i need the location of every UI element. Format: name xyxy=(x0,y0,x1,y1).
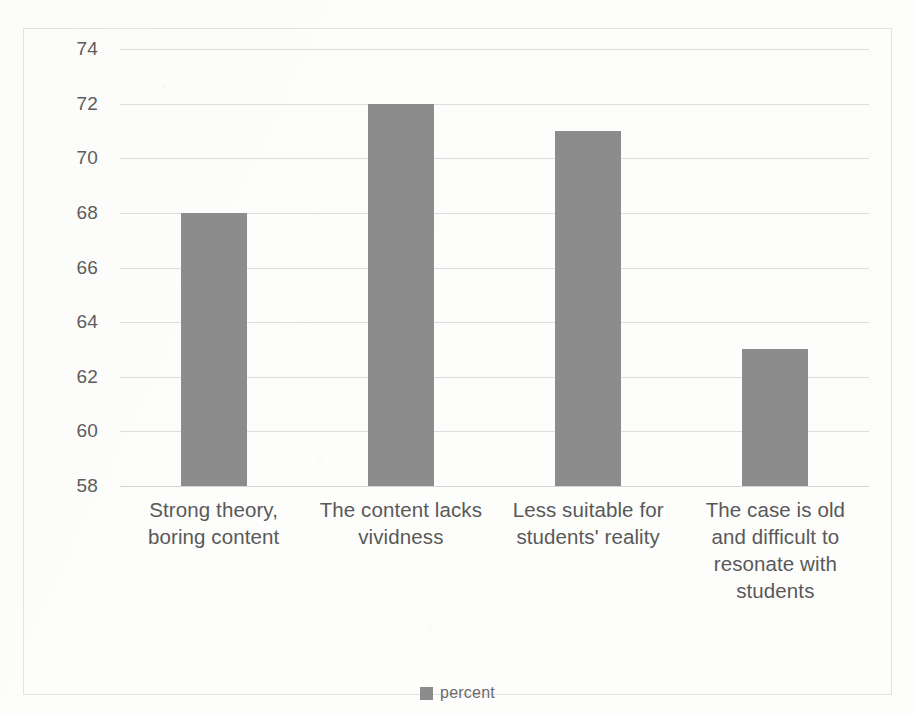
y-axis-tick-68: 68 xyxy=(76,202,98,224)
y-axis-tick-58: 58 xyxy=(76,475,98,497)
category-label-4: The case is old and difficult to resonat… xyxy=(682,496,869,604)
y-axis-tick-60: 60 xyxy=(76,420,98,442)
y-axis-tick-64: 64 xyxy=(76,311,98,333)
bar-1 xyxy=(181,213,247,486)
bar-slot-1 xyxy=(120,49,307,486)
chart-legend: percent xyxy=(24,684,891,702)
y-axis-tick-74: 74 xyxy=(76,38,98,60)
bar-2 xyxy=(368,104,434,486)
chart-page: 747270686664626058 Strong theory, boring… xyxy=(0,0,914,715)
y-axis-tick-62: 62 xyxy=(76,366,98,388)
legend-swatch-icon xyxy=(420,687,433,700)
gridline-58: 58 xyxy=(120,486,869,487)
bar-3 xyxy=(555,131,621,486)
bar-group xyxy=(120,49,869,486)
y-axis-tick-70: 70 xyxy=(76,147,98,169)
bar-slot-3 xyxy=(495,49,682,486)
category-axis-labels: Strong theory, boring contentThe content… xyxy=(120,496,869,604)
bar-4 xyxy=(742,349,808,486)
legend-label-percent: percent xyxy=(440,684,495,702)
bar-slot-4 xyxy=(682,49,869,486)
bar-slot-2 xyxy=(307,49,494,486)
y-axis-tick-66: 66 xyxy=(76,257,98,279)
category-label-3: Less suitable for students' reality xyxy=(495,496,682,604)
chart-frame: 747270686664626058 Strong theory, boring… xyxy=(23,28,892,695)
category-label-2: The content lacks vividness xyxy=(307,496,494,604)
y-axis-tick-72: 72 xyxy=(76,93,98,115)
category-label-1: Strong theory, boring content xyxy=(120,496,307,604)
plot-area: 747270686664626058 xyxy=(120,49,869,486)
